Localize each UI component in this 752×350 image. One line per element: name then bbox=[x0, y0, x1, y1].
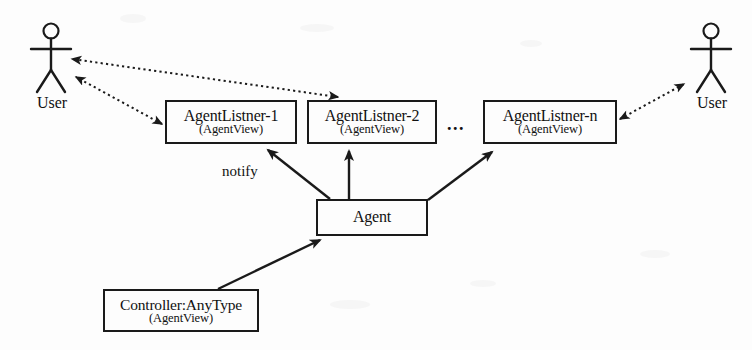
node-agent-listner-n[interactable]: AgentListner-n (AgentView) bbox=[483, 100, 617, 144]
edge-agent-to-listner1 bbox=[268, 150, 330, 199]
edge-listner2-to-user-left bbox=[72, 59, 338, 97]
node-controller-subtitle: (AgentView) bbox=[149, 312, 213, 325]
node-agent-listner-2-subtitle: (AgentView) bbox=[340, 123, 404, 136]
node-agent-listner-n-subtitle: (AgentView) bbox=[518, 123, 582, 136]
node-agent[interactable]: Agent bbox=[316, 199, 428, 236]
edge-controller-to-agent bbox=[218, 240, 320, 289]
edge-listner1-to-user-left bbox=[76, 77, 162, 124]
listner-series-ellipsis: ... bbox=[447, 114, 465, 135]
node-agent-title: Agent bbox=[353, 209, 391, 225]
node-agent-listner-1-subtitle: (AgentView) bbox=[199, 123, 263, 136]
edge-listnern-to-user-right bbox=[620, 84, 684, 119]
actor-user-left: User bbox=[20, 20, 84, 120]
actor-user-left-label: User bbox=[20, 94, 84, 112]
node-agent-listner-2[interactable]: AgentListner-2 (AgentView) bbox=[307, 100, 437, 144]
diagram-canvas: User User AgentListner-1 (AgentView) Age… bbox=[0, 0, 752, 350]
node-agent-listner-1[interactable]: AgentListner-1 (AgentView) bbox=[165, 100, 297, 144]
edge-agent-to-listnern bbox=[428, 152, 492, 200]
actor-user-right: User bbox=[680, 20, 744, 120]
edge-label-notify: notify bbox=[222, 163, 258, 180]
actor-user-right-label: User bbox=[680, 94, 744, 112]
node-controller[interactable]: Controller:AnyType (AgentView) bbox=[103, 289, 259, 332]
